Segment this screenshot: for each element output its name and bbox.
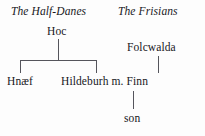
connector-hildeburh-finn-to-son: [133, 91, 134, 109]
genealogy-diagram: The Half-Danes The Frisians Hoc Folcwald…: [0, 0, 205, 136]
connector-hoc-to-hnaef: [20, 60, 21, 73]
connector-hoc-sibling-bar: [20, 60, 97, 61]
connector-hoc-descent-stem: [58, 39, 59, 60]
group-header-half-danes: The Half-Danes: [11, 5, 86, 18]
person-node-hnaef: Hnæf: [7, 75, 33, 88]
person-node-hildeburh-finn: Hildeburh m. Finn: [61, 75, 148, 88]
connector-folcwalda-to-finn: [158, 56, 159, 73]
person-node-hoc: Hoc: [47, 25, 66, 38]
group-header-frisians: The Frisians: [118, 5, 178, 18]
connector-hoc-to-hildeburh: [96, 60, 97, 73]
person-node-son: son: [124, 112, 140, 125]
person-node-folcwalda: Folcwalda: [127, 41, 176, 54]
